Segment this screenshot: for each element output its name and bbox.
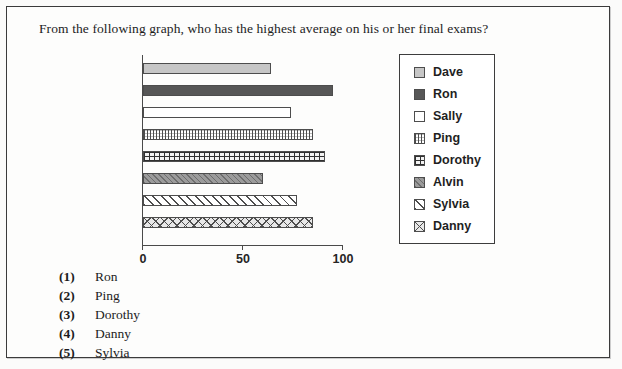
x-tick-100 xyxy=(342,245,343,250)
legend-label-ping: Ping xyxy=(433,131,460,145)
legend-swatch-danny-icon xyxy=(414,221,425,232)
legend-swatch-ron-icon xyxy=(414,89,425,100)
x-tick-50 xyxy=(242,245,243,250)
legend-swatch-sally-icon xyxy=(414,111,425,122)
legend-item-sylvia: Sylvia xyxy=(414,197,469,211)
legend-item-alvin: Alvin xyxy=(414,175,464,189)
legend-swatch-ping-icon xyxy=(414,133,425,144)
legend-item-sally: Sally xyxy=(414,109,462,123)
chart-legend: Dave Ron Sally Ping Dorothy Alvin xyxy=(399,54,495,244)
legend-swatch-dave-icon xyxy=(414,67,425,78)
legend-item-dorothy: Dorothy xyxy=(414,153,481,167)
legend-item-dave: Dave xyxy=(414,65,463,79)
x-tick-label-50: 50 xyxy=(236,252,250,266)
legend-label-danny: Danny xyxy=(433,219,471,233)
legend-label-dorothy: Dorothy xyxy=(433,153,481,167)
bar-dorothy xyxy=(143,151,325,162)
x-tick-0 xyxy=(142,245,143,250)
legend-item-ping: Ping xyxy=(414,131,460,145)
option-text-3: Dorothy xyxy=(95,307,140,323)
legend-label-dave: Dave xyxy=(433,65,463,79)
x-tick-label-100: 100 xyxy=(333,252,354,266)
legend-label-ron: Ron xyxy=(433,87,457,101)
legend-swatch-dorothy-icon xyxy=(414,155,425,166)
legend-item-danny: Danny xyxy=(414,219,471,233)
legend-label-sylvia: Sylvia xyxy=(433,197,469,211)
legend-swatch-alvin-icon xyxy=(414,177,425,188)
legend-label-alvin: Alvin xyxy=(433,175,464,189)
option-text-1: Ron xyxy=(95,269,118,285)
x-tick-label-0: 0 xyxy=(140,252,147,266)
option-number-3: (3) xyxy=(59,307,87,323)
bar-alvin xyxy=(143,173,263,184)
screenshot-page: From the following graph, who has the hi… xyxy=(0,0,622,369)
option-number-4: (4) xyxy=(59,326,87,342)
legend-label-sally: Sally xyxy=(433,109,462,123)
option-text-5: Sylvia xyxy=(95,345,130,361)
option-number-1: (1) xyxy=(59,269,87,285)
option-number-5: (5) xyxy=(59,345,87,361)
bar-sally xyxy=(143,107,291,118)
option-text-2: Ping xyxy=(95,288,120,304)
bar-ping xyxy=(143,129,313,140)
question-panel: From the following graph, who has the hi… xyxy=(6,6,610,358)
option-text-4: Danny xyxy=(95,326,131,342)
bar-sylvia xyxy=(143,195,297,206)
legend-swatch-sylvia-icon xyxy=(414,199,425,210)
legend-item-ron: Ron xyxy=(414,87,457,101)
bar-danny xyxy=(143,217,313,228)
bar-ron xyxy=(143,85,333,96)
option-number-2: (2) xyxy=(59,288,87,304)
bar-dave xyxy=(143,63,271,74)
